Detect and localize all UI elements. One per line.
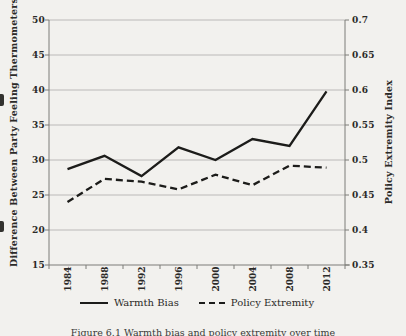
left-axis-tick-label: 15 <box>20 260 45 271</box>
series-policy-extremity <box>68 166 327 202</box>
series-warmth-bias <box>68 91 327 176</box>
x-axis-tick-label: 1996 <box>173 267 184 301</box>
figure-page: 50454035302520150.70.650.60.550.50.450.4… <box>0 0 406 336</box>
right-axis-tick-label: 0.6 <box>352 85 382 96</box>
x-axis-tick-label: 1984 <box>62 267 73 301</box>
chart-legend: Warmth BiasPolicy Extremity <box>49 297 345 309</box>
figure-caption: Figure 6.1 Warmth bias and policy extrem… <box>0 327 406 336</box>
legend-solid-line-swatch <box>80 302 108 305</box>
left-axis-tick-label: 20 <box>20 225 45 236</box>
x-axis-tick-label: 2000 <box>210 267 221 301</box>
x-axis-tick-label: 1992 <box>136 267 147 301</box>
left-axis-tick-label: 50 <box>20 15 45 26</box>
scan-artifact <box>0 94 4 106</box>
legend-item: Policy Extremity <box>199 297 314 309</box>
right-axis-tick-label: 0.45 <box>352 190 382 201</box>
x-axis-tick-label: 2012 <box>321 267 332 301</box>
right-axis-tick-label: 0.65 <box>352 50 382 61</box>
x-axis-tick-label: 2008 <box>284 267 295 301</box>
left-axis-tick-label: 40 <box>20 85 45 96</box>
left-axis-tick-label: 30 <box>20 155 45 166</box>
legend-label: Policy Extremity <box>231 297 314 309</box>
scan-artifact <box>0 221 4 232</box>
left-axis-tick-label: 25 <box>20 190 45 201</box>
left-axis-tick-label: 35 <box>20 120 45 131</box>
right-axis-tick-label: 0.7 <box>352 15 382 26</box>
legend-label: Warmth Bias <box>114 297 179 309</box>
right-axis-tick-label: 0.55 <box>352 120 382 131</box>
x-axis-tick-label: 2004 <box>247 267 258 301</box>
legend-item: Warmth Bias <box>80 297 179 309</box>
right-axis-tick-label: 0.4 <box>352 225 382 236</box>
x-axis-tick-label: 1988 <box>99 267 110 301</box>
left-axis-title: Difference Between Party Feeling Thermom… <box>8 17 20 267</box>
legend-dashed-line-swatch <box>199 302 225 305</box>
right-axis-tick-label: 0.35 <box>352 260 382 271</box>
left-axis-tick-label: 45 <box>20 50 45 61</box>
right-axis-tick-label: 0.5 <box>352 155 382 166</box>
right-axis-title: Policy Extremity Index <box>383 17 395 267</box>
chart-canvas <box>0 0 406 336</box>
